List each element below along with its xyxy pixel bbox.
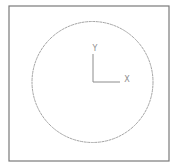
drawing-viewport[interactable]: Y X (0, 0, 172, 167)
ucs-y-label: Y (92, 44, 98, 53)
ucs-x-label: X (124, 75, 130, 84)
